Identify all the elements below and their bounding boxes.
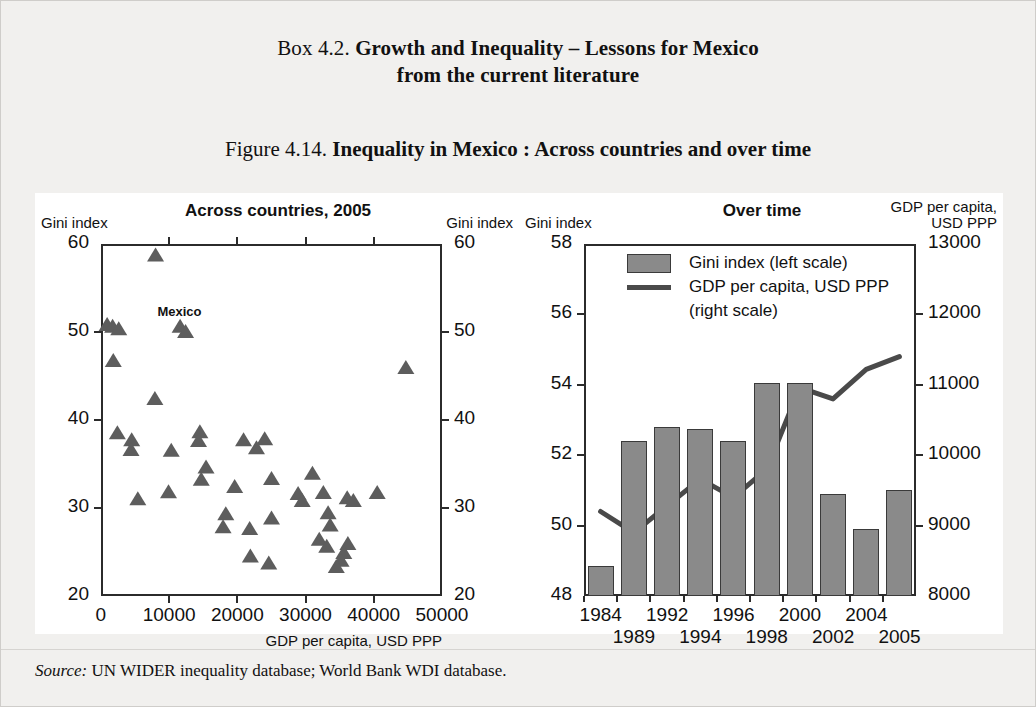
xtick-mark-top-30000	[305, 237, 307, 244]
xtick-label-1992: 1992	[646, 604, 688, 626]
scatter-point-33	[215, 519, 232, 533]
bar-2005	[886, 490, 912, 596]
chart-left-markers: Mexico	[35, 193, 521, 634]
xtick-label-1994: 1994	[679, 626, 721, 648]
box-title-line1: Growth and Inequality – Lessons for Mexi…	[355, 36, 759, 60]
scatter-point-24	[160, 484, 177, 498]
xtick-mark-bottom-30000	[305, 596, 307, 603]
figure-heading: Figure 4.14. Inequality in Mexico : Acro…	[1, 136, 1035, 163]
xtick-label-1996: 1996	[712, 604, 754, 626]
xtick-mark-2004	[849, 596, 851, 602]
ytick-label-right-50: 50	[454, 319, 475, 341]
ytick-label-right-8000: 8000	[928, 583, 970, 605]
xtick-label-1984: 1984	[580, 604, 622, 626]
bar-1989	[621, 441, 647, 596]
xtick-label-0: 0	[96, 604, 107, 626]
legend-label-gini: Gini index (left scale)	[689, 253, 848, 273]
xtick-mark-2002	[815, 596, 817, 602]
xtick-label-40000: 40000	[347, 604, 400, 626]
bar-2002	[820, 494, 846, 596]
scatter-point-30	[369, 485, 386, 499]
scatter-point-12	[163, 443, 180, 457]
figure-page: Box 4.2. Growth and Inequality – Lessons…	[0, 0, 1036, 707]
ytick-label-right-10000: 10000	[928, 442, 981, 464]
ytick-mark-right-11000	[916, 384, 923, 386]
scatter-point-20	[226, 479, 243, 493]
ytick-mark-left-56	[577, 313, 584, 315]
xtick-mark-1994	[683, 596, 685, 602]
xtick-label-2005: 2005	[878, 626, 920, 648]
box-title-line2: from the current literature	[397, 63, 639, 87]
legend-label-gdp: GDP per capita, USD PPP	[689, 277, 889, 297]
box-label: Box 4.2.	[277, 36, 350, 60]
xtick-label-2002: 2002	[812, 626, 854, 648]
ytick-label-left-58: 58	[521, 231, 572, 253]
scatter-point-7	[397, 360, 414, 374]
scatter-point-35	[263, 511, 280, 525]
chart-across-countries: Across countries, 2005 Gini index Gini i…	[35, 193, 521, 634]
charts-panel: Across countries, 2005 Gini index Gini i…	[35, 193, 1003, 634]
ytick-mark-right-9000	[916, 525, 923, 527]
xtick-mark-1998	[749, 596, 751, 602]
xtick-mark-1989	[616, 596, 618, 602]
ytick-label-right-30: 30	[454, 495, 475, 517]
source-label: Source:	[35, 661, 87, 680]
divider	[1, 649, 1035, 650]
scatter-point-15	[235, 432, 252, 446]
ytick-label-right-40: 40	[454, 407, 475, 429]
ytick-mark-left-52	[577, 454, 584, 456]
ytick-mark-right-10000	[916, 454, 923, 456]
box-heading: Box 4.2. Growth and Inequality – Lessons…	[1, 35, 1035, 89]
ytick-label-left-54: 54	[521, 372, 572, 394]
ytick-mark-right-50	[442, 331, 449, 333]
xtick-label-1998: 1998	[746, 626, 788, 648]
source-text: UN WIDER inequality database; World Bank…	[92, 661, 507, 680]
xtick-label-20000: 20000	[211, 604, 264, 626]
bar-1996	[720, 441, 746, 596]
ytick-mark-right-12000	[916, 313, 923, 315]
xtick-label-30000: 30000	[279, 604, 332, 626]
scatter-point-8	[146, 391, 163, 405]
ytick-label-right-11000: 11000	[928, 372, 979, 394]
ytick-label-left-50: 50	[521, 513, 572, 535]
scatter-point-31	[217, 506, 234, 520]
xtick-label-1989: 1989	[613, 626, 655, 648]
xtick-mark-bottom-20000	[236, 596, 238, 603]
xtick-mark-bottom-40000	[373, 596, 375, 603]
scatter-point-16	[256, 431, 273, 445]
ytick-mark-left-50	[94, 331, 101, 333]
xtick-label-2004: 2004	[845, 604, 887, 626]
scatter-point-41	[242, 548, 259, 562]
ytick-mark-left-54	[577, 384, 584, 386]
ytick-label-right-12000: 12000	[928, 301, 981, 323]
ytick-label-left-30: 30	[35, 495, 89, 517]
xtick-label-50000: 50000	[416, 604, 469, 626]
xtick-mark-2005	[882, 596, 884, 602]
bar-2004	[853, 529, 879, 596]
scatter-point-19	[193, 472, 210, 486]
ytick-label-left-50: 50	[35, 319, 89, 341]
ytick-label-left-48: 48	[521, 583, 572, 605]
scatter-point-32	[320, 505, 337, 519]
source-note: Source: UN WIDER inequality database; Wo…	[35, 661, 507, 681]
ytick-mark-right-40	[442, 419, 449, 421]
ytick-label-left-20: 20	[35, 583, 89, 605]
ytick-mark-left-30	[94, 507, 101, 509]
xtick-mark-1996	[716, 596, 718, 602]
legend-swatch-gini	[627, 254, 671, 273]
xtick-mark-bottom-10000	[168, 596, 170, 603]
xtick-mark-1984	[583, 596, 585, 602]
scatter-point-6	[105, 353, 122, 367]
scatter-annotation-0: Mexico	[157, 304, 201, 319]
xtick-mark-2000	[782, 596, 784, 602]
scatter-point-22	[304, 466, 321, 480]
figure-label: Figure 4.14.	[225, 137, 327, 161]
bar-1998	[754, 383, 780, 596]
xtick-mark-top-10000	[168, 237, 170, 244]
scatter-point-9	[109, 425, 126, 439]
scatter-point-36	[322, 518, 339, 532]
xtick-mark-1992	[649, 596, 651, 602]
bar-1984	[588, 566, 614, 596]
legend-label-gdp-scale: (right scale)	[689, 301, 778, 321]
scatter-point-0	[147, 247, 164, 261]
